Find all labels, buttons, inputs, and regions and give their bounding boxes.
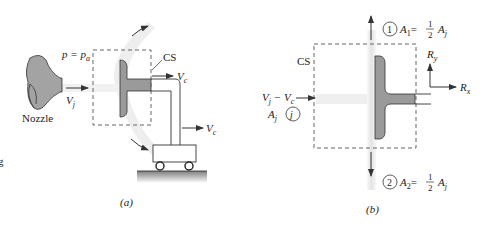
vane-a <box>120 60 151 117</box>
edge-glyph: g <box>0 155 4 167</box>
reaction-x-label: Rx <box>459 81 471 96</box>
cart-wheel-left <box>156 162 164 170</box>
section2-number: 2 <box>387 177 392 188</box>
jet-shade-horizontal <box>316 94 372 104</box>
section2-jet-area: Aj <box>437 176 448 191</box>
nozzle-label: Nozzle <box>22 112 53 124</box>
cs-leader-line <box>152 60 162 70</box>
jet-velocity-label: Vj <box>66 94 76 109</box>
inlet-velocity-label: Vj − Vc <box>262 91 295 106</box>
inlet-section-circle <box>286 107 300 121</box>
nozzle <box>26 55 62 109</box>
section2-frac-den: 2 <box>428 183 433 193</box>
cart-wheel-right <box>185 162 193 170</box>
cs-label-a: CS <box>163 51 176 63</box>
section1-jet-area: Aj <box>437 23 448 38</box>
ground <box>137 171 207 183</box>
reaction-y-label: Ry <box>426 48 438 63</box>
section2-frac-num: 1 <box>428 172 433 182</box>
inlet-area-label: Aj <box>267 108 278 123</box>
caption-b: (b) <box>366 203 379 216</box>
section1-area-label: A1= <box>399 23 417 38</box>
caption-a: (a) <box>120 196 133 209</box>
cart-body <box>153 145 196 162</box>
vane-velocity-label: Vc <box>177 70 188 85</box>
diagram-canvas: Nozzle Vj p = pa CS Vc Vc <box>0 0 491 232</box>
cs-label-b: CS <box>297 55 310 67</box>
inlet-section-label: j <box>288 109 293 120</box>
panel-b: Vj − Vc Aj j CS 1 A1= 1 2 Aj 2 A2= 1 2 A… <box>262 16 471 216</box>
pressure-label: p = pa <box>61 48 90 63</box>
section1-number: 1 <box>387 24 392 35</box>
section1-frac-num: 1 <box>428 19 433 29</box>
panel-a: Nozzle Vj p = pa CS Vc Vc <box>0 22 217 209</box>
vane-b <box>375 56 415 139</box>
cart-velocity-label: Vc <box>206 122 217 137</box>
cart-support <box>151 79 180 145</box>
section1-frac-den: 2 <box>428 30 433 40</box>
section2-area-label: A2= <box>399 176 417 191</box>
